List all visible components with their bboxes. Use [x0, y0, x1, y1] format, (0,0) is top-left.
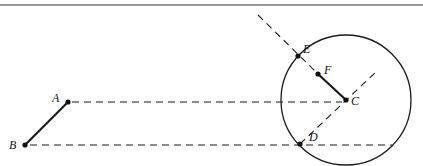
point-f-marker: [315, 71, 320, 76]
point-e-label: E: [302, 42, 311, 56]
point-e-marker: [295, 53, 300, 58]
points: ABCDEF: [9, 42, 360, 152]
point-a-label: A: [51, 91, 60, 105]
solid-segments: [25, 74, 346, 145]
point-d-marker: [297, 141, 302, 146]
point-a-marker: [65, 99, 70, 104]
point-f-label: F: [323, 63, 332, 77]
geometry-diagram: ABCDEF: [0, 0, 423, 166]
point-b-label: B: [9, 138, 17, 152]
point-d-label: D: [308, 130, 318, 144]
segment-a-b: [25, 102, 68, 145]
point-b-marker: [22, 142, 27, 147]
point-c-marker: [343, 97, 348, 102]
segment-f-c: [318, 74, 346, 100]
point-c-label: C: [351, 94, 360, 108]
dashed-lines: [30, 15, 392, 145]
